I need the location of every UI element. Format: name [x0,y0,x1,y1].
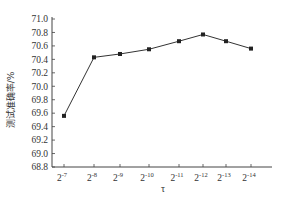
data-point-marker [92,55,96,59]
x-axis: 2-72-82-92-102-112-122-132-14 [52,164,272,183]
x-tick-label: 2-9 [113,171,123,183]
y-tick-label: 71.0 [31,14,48,24]
y-axis: 71.070.870.670.470.270.069.869.669.469.2… [31,14,55,172]
line-chart: 71.070.870.670.470.270.069.869.669.469.2… [0,0,285,200]
series-line [64,34,251,115]
x-axis-title: τ [161,183,165,194]
x-tick-label: 2-14 [242,171,256,183]
x-tick-label: 2-7 [57,171,68,183]
y-tick-label: 70.8 [31,28,48,38]
data-point-marker [147,47,151,51]
y-tick-label: 69.6 [31,108,48,118]
data-series [62,32,253,117]
y-tick-label: 70.6 [31,41,48,51]
y-tick-label: 70.4 [31,55,48,65]
y-tick-label: 68.8 [31,162,48,172]
data-point-marker [201,32,205,36]
data-point-marker [249,47,253,51]
x-tick-label: 2-10 [140,171,153,183]
x-tick-label: 2-13 [217,171,230,183]
x-tick-label: 2-11 [170,171,183,183]
y-tick-label: 69.0 [31,149,48,159]
y-tick-label: 69.8 [31,95,48,105]
x-tick-label: 2-8 [87,171,97,183]
data-point-marker [224,39,228,43]
x-tick-label: 2-12 [194,171,207,183]
y-axis-title: 测试准确率/% [5,71,16,128]
data-point-marker [177,39,181,43]
y-tick-label: 69.4 [31,122,48,132]
y-tick-label: 70.0 [31,82,48,92]
data-point-marker [62,114,66,118]
data-point-marker [118,52,122,56]
y-tick-label: 70.2 [31,68,48,78]
y-tick-label: 69.2 [31,135,48,145]
